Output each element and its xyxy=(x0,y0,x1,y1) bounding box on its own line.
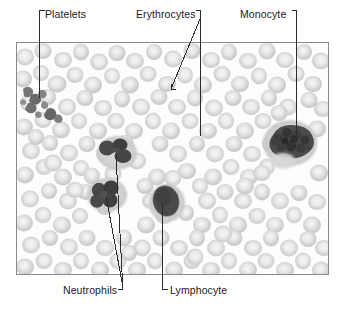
figure-root: Platelets Erythrocytes Monocyte Neutroph… xyxy=(0,0,340,312)
label-monocyte: Monocyte xyxy=(240,8,286,20)
label-erythrocytes: Erythrocytes xyxy=(136,8,196,20)
neutrophil-cell-lower xyxy=(87,178,127,212)
blood-smear-field xyxy=(17,43,328,274)
label-lymphocyte: Lymphocyte xyxy=(170,284,227,296)
neutrophils-bracket xyxy=(118,282,123,290)
micrograph-frame xyxy=(16,42,329,275)
neutrophil-cell-upper xyxy=(97,136,137,170)
label-neutrophils: Neutrophils xyxy=(63,284,117,296)
label-platelets: Platelets xyxy=(45,8,86,20)
lymphocyte-bracket xyxy=(163,282,168,290)
platelets-bracket xyxy=(40,11,45,19)
erythrocytes-bracket xyxy=(196,11,201,19)
monocyte-bracket xyxy=(292,11,297,19)
